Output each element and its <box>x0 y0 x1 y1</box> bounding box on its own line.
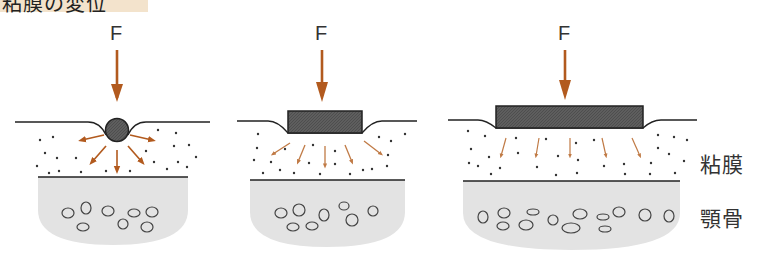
narrow-block-indenter <box>288 111 362 133</box>
mucosa-label: 粘膜 <box>700 148 744 178</box>
force-label-2: F <box>315 22 327 45</box>
force-arrow-icon <box>111 84 123 102</box>
force-label-3: F <box>558 22 570 45</box>
force-arrow-icon <box>559 80 571 100</box>
panel-small-base <box>237 50 417 247</box>
panel-wide-base <box>448 50 697 250</box>
jawbone-label: 顎骨 <box>700 202 744 232</box>
ball-indenter <box>106 119 129 142</box>
jawbone-region <box>38 177 188 245</box>
wide-block-indenter <box>496 106 643 128</box>
panel-point-load <box>15 50 210 245</box>
force-arrow-icon <box>316 82 328 102</box>
force-label-1: F <box>110 22 122 45</box>
